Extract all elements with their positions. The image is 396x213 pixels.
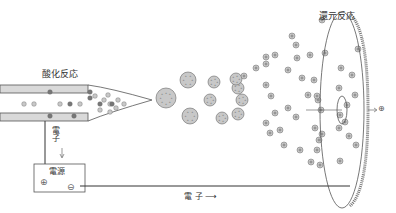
- svg-text:+: +: [232, 76, 234, 79]
- ion-icon: [293, 114, 299, 120]
- charged-droplets: ++++++++++++++++++++++++++++++++++++++++…: [156, 72, 248, 124]
- ion-icon: [305, 92, 311, 98]
- ion-icon: [319, 131, 325, 137]
- droplet: +++++: [216, 112, 228, 124]
- droplet: +++++: [232, 108, 244, 120]
- svg-text:+: +: [238, 116, 240, 119]
- ion-icon: [307, 52, 313, 58]
- ion-icon: [338, 65, 344, 71]
- svg-text:+: +: [214, 84, 216, 87]
- ion-icon: [337, 158, 343, 164]
- svg-text:+: +: [240, 113, 242, 116]
- svg-text:+: +: [212, 99, 214, 102]
- svg-text:+: +: [222, 120, 224, 123]
- svg-text:+: +: [185, 83, 187, 86]
- svg-text:+: +: [170, 97, 172, 100]
- ion-icon: [268, 93, 274, 99]
- droplet: +++++: [230, 73, 242, 85]
- ion-icon: [263, 61, 269, 67]
- taylor-cone: [88, 85, 152, 121]
- svg-text:+: +: [234, 115, 236, 118]
- svg-text:+: +: [210, 79, 212, 82]
- reduction-label: 還元反応: [319, 12, 355, 21]
- svg-text:+: +: [161, 101, 163, 104]
- droplet: ++++++++: [156, 88, 176, 108]
- tube-particle: [88, 96, 93, 101]
- ion-icon: [336, 85, 342, 91]
- svg-text:+: +: [165, 103, 167, 106]
- ion-icon: [253, 65, 259, 71]
- svg-text:+: +: [224, 117, 226, 120]
- ion-icon: [312, 125, 318, 131]
- tube-particle: [22, 102, 27, 107]
- ion-icon: [336, 125, 342, 131]
- exit-ion-icon: ⊕: [378, 105, 385, 113]
- svg-text:+: +: [165, 92, 167, 95]
- svg-text:+: +: [222, 114, 224, 117]
- diagram-canvas: ++++++++++++++++++++++++++++++++++++++++…: [0, 0, 396, 213]
- svg-text:+: +: [244, 99, 246, 102]
- electron-bottom-label: 電 子 ⟶: [184, 193, 217, 201]
- ion-icon: [263, 82, 269, 88]
- ion-icon: [346, 133, 352, 139]
- tube-particle: [68, 102, 73, 107]
- svg-text:+: +: [210, 96, 212, 99]
- svg-text:+: +: [169, 101, 171, 104]
- tube-particle: [114, 106, 119, 111]
- svg-text:+: +: [189, 83, 191, 86]
- plus-terminal-icon: ⊕: [40, 178, 48, 187]
- ion-icon: [353, 142, 359, 148]
- ion-icon: [352, 92, 358, 98]
- svg-text:+: +: [193, 115, 195, 118]
- svg-text:+: +: [234, 111, 236, 114]
- svg-text:+: +: [238, 90, 240, 93]
- oxidation-label: 酸化反応: [42, 70, 78, 79]
- svg-text:+: +: [159, 97, 161, 100]
- svg-text:+: +: [238, 101, 240, 104]
- ion-icon: [285, 105, 291, 111]
- svg-text:+: +: [187, 119, 189, 122]
- tube-particle: [32, 102, 37, 107]
- ion-icon: [272, 110, 278, 116]
- svg-text:+: +: [185, 75, 187, 78]
- ion-icon: [293, 42, 299, 48]
- tube-particle: [102, 98, 107, 103]
- ion-icon: [241, 73, 247, 79]
- ion-icon: [314, 93, 320, 99]
- electron-vertical-label: 電子: [50, 126, 58, 142]
- droplet: ++++++: [182, 108, 198, 124]
- ion-icon: [349, 72, 355, 78]
- ion-icon: [285, 67, 291, 73]
- droplet: +++++: [236, 94, 248, 106]
- svg-text:+: +: [240, 87, 242, 90]
- svg-text:+: +: [183, 79, 185, 82]
- tube-particle: [108, 110, 113, 115]
- tube-upper-wall: [0, 85, 88, 93]
- tube-particle: [93, 94, 98, 99]
- svg-text:+: +: [242, 96, 244, 99]
- ion-icon: [314, 147, 320, 153]
- ion-icon: [308, 159, 314, 165]
- svg-text:+: +: [189, 75, 191, 78]
- svg-text:+: +: [214, 78, 216, 81]
- ion-icon: [297, 147, 303, 153]
- svg-text:+: +: [238, 97, 240, 100]
- svg-text:+: +: [218, 115, 220, 118]
- svg-text:+: +: [185, 115, 187, 118]
- tube-particle: [122, 102, 127, 107]
- svg-text:+: +: [234, 85, 236, 88]
- minus-terminal-icon: ⊖: [67, 183, 75, 192]
- tube-particle: [48, 90, 53, 95]
- svg-text:+: +: [216, 81, 218, 84]
- ion-icon: [322, 50, 328, 56]
- svg-text:+: +: [206, 101, 208, 104]
- tube-particle: [98, 102, 103, 107]
- tube-particle: [72, 114, 77, 119]
- svg-text:+: +: [206, 97, 208, 100]
- ion-icon: [267, 130, 273, 136]
- svg-text:+: +: [238, 110, 240, 113]
- ion-icon: [355, 46, 361, 52]
- ion-icon: [317, 162, 323, 168]
- ion-icon: [272, 52, 278, 58]
- svg-text:+: +: [238, 78, 240, 81]
